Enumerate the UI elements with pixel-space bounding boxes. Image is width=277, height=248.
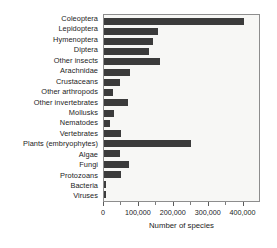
bar-row [104, 159, 259, 169]
bar-row [104, 149, 259, 159]
category-label: Viruses [0, 191, 101, 201]
bar-row [104, 190, 259, 200]
bar-row [104, 88, 259, 98]
bar [104, 171, 121, 178]
category-label: Coleoptera [0, 14, 101, 24]
x-tick-label: 400,000 [230, 207, 256, 218]
category-label: Vertebrates [0, 129, 101, 139]
bar [104, 161, 129, 168]
bar-row [104, 108, 259, 118]
bar-row [104, 47, 259, 57]
category-label: Hymenoptera [0, 35, 101, 45]
x-minor-tick [190, 202, 191, 205]
x-tick-label: 0 [101, 207, 105, 218]
category-label: Other invertebrates [0, 98, 101, 108]
bar-row [104, 169, 259, 179]
bar-row [104, 139, 259, 149]
bar [104, 130, 121, 137]
category-label: Protozoans [0, 171, 101, 181]
bar-row [104, 180, 259, 190]
bar-row [104, 16, 259, 26]
bar [104, 48, 149, 55]
x-minor-tick [155, 202, 156, 205]
bar-row [104, 128, 259, 138]
bar-series [104, 15, 259, 201]
category-label: Fungi [0, 160, 101, 170]
bar-row [104, 77, 259, 87]
category-label: Bacteria [0, 181, 101, 191]
x-minor-tick [225, 202, 226, 205]
x-tick-labels: 0100,000200,000300,000400,000 [0, 207, 277, 218]
category-label: Algae [0, 150, 101, 160]
bar-row [104, 26, 259, 36]
x-major-tick [138, 202, 139, 206]
bar-row [104, 57, 259, 67]
x-minor-tick [120, 202, 121, 205]
bar [104, 181, 106, 188]
x-tick-label: 100,000 [125, 207, 151, 218]
bar [104, 89, 113, 96]
bar [104, 99, 128, 106]
bar [104, 110, 114, 117]
species-bar-chart: ColeopteraLepidopteraHymenopteraDipteraO… [0, 0, 277, 248]
bar [104, 120, 110, 127]
bar [104, 58, 160, 65]
category-label: Other insects [0, 56, 101, 66]
bar [104, 18, 244, 25]
category-label: Diptera [0, 45, 101, 55]
bar [104, 79, 120, 86]
category-label: Nematodes [0, 118, 101, 128]
x-major-tick [173, 202, 174, 206]
bar [104, 140, 191, 147]
category-label: Lepidoptera [0, 24, 101, 34]
bar-row [104, 67, 259, 77]
x-major-tick [103, 202, 104, 206]
x-major-tick [243, 202, 244, 206]
category-label: Arachnidae [0, 66, 101, 76]
category-label: Mollusks [0, 108, 101, 118]
bar [104, 191, 106, 198]
category-label: Plants (embryophytes) [0, 139, 101, 149]
x-major-tick [208, 202, 209, 206]
bar [104, 38, 153, 45]
category-label: Other arthropods [0, 87, 101, 97]
bar-row [104, 36, 259, 46]
x-axis-title: Number of species [103, 221, 260, 230]
category-axis: ColeopteraLepidopteraHymenopteraDipteraO… [0, 14, 101, 202]
category-label: Crustaceans [0, 77, 101, 87]
x-tick-label: 200,000 [160, 207, 186, 218]
bar-row [104, 98, 259, 108]
bar [104, 69, 130, 76]
bar-row [104, 118, 259, 128]
x-tick-label: 300,000 [195, 207, 221, 218]
plot-area [103, 14, 260, 202]
bar [104, 28, 158, 35]
bar [104, 150, 120, 157]
